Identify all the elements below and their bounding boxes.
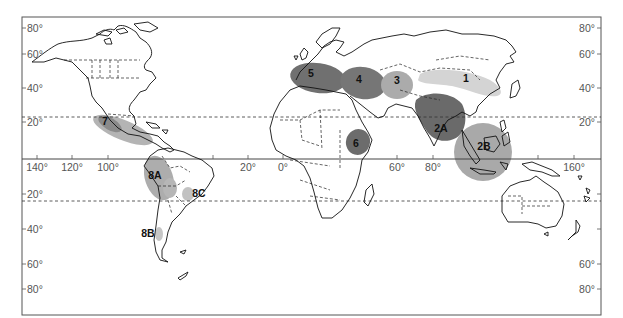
lat-label: 20°	[27, 116, 43, 128]
lat-label: 80°	[27, 283, 43, 295]
lon-label: 120°	[61, 161, 83, 173]
arctic-islands	[96, 22, 158, 44]
region-label-2b: 2B	[477, 140, 491, 152]
region-1-shade	[418, 70, 501, 97]
north-america-outline	[32, 25, 174, 152]
caribbean-islands	[146, 122, 168, 134]
region-label-1: 1	[463, 72, 469, 84]
falkland-islands	[178, 250, 188, 280]
lat-label: 60°	[579, 258, 595, 270]
lat-label: 40°	[27, 223, 43, 235]
australia-outline	[502, 176, 564, 228]
lon-label: 60°	[389, 161, 405, 173]
madagascar	[364, 184, 374, 206]
pacific-islands	[578, 176, 590, 202]
lon-label: 80°	[425, 161, 441, 173]
scandinavia	[316, 28, 340, 48]
lat-label: 80°	[27, 22, 43, 34]
region-label-8b: 8B	[141, 227, 155, 239]
lat-label: 80°	[579, 283, 595, 295]
world-map: 1 2A 2B 3 4 5 6 7 8A 8B 8C 80° 60° 40° 2…	[0, 0, 623, 318]
lat-label: 20°	[579, 116, 595, 128]
region-label-3: 3	[394, 74, 400, 86]
region-label-8a: 8A	[148, 169, 162, 181]
tasmania	[544, 232, 548, 236]
region-label-5: 5	[308, 67, 314, 79]
lon-label: 100°	[97, 161, 119, 173]
lat-label: 60°	[27, 258, 43, 270]
region-label-6: 6	[353, 137, 359, 149]
lat-label: 40°	[579, 82, 595, 94]
british-isles	[294, 48, 308, 60]
lon-label: 140°	[26, 161, 48, 173]
lat-label: 60°	[27, 48, 43, 60]
lon-label: 0°	[278, 161, 288, 173]
region-label-7: 7	[102, 115, 108, 127]
new-guinea	[522, 162, 560, 176]
lat-label: 60°	[579, 48, 595, 60]
region-label-8c: 8C	[192, 187, 206, 199]
region-label-4: 4	[356, 73, 362, 85]
region-8b-shade	[155, 227, 163, 241]
lon-label: 20°	[240, 161, 256, 173]
region-4-shade	[338, 63, 389, 103]
region-labels: 1 2A 2B 3 4 5 6 7 8A 8B 8C	[102, 67, 491, 239]
new-zealand	[568, 220, 580, 240]
lat-label: 40°	[27, 82, 43, 94]
lon-label: 160°	[563, 161, 585, 173]
japan	[510, 80, 520, 98]
lat-label: 80°	[579, 22, 595, 34]
lat-label: 20°	[27, 188, 43, 200]
region-label-2a: 2A	[434, 122, 448, 134]
